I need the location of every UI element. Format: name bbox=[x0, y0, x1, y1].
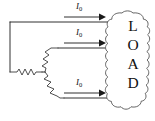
winding-lower-coil-icon bbox=[44, 72, 64, 98]
winding-upper-coil-icon bbox=[42, 48, 58, 72]
load-letter-l: L bbox=[118, 17, 148, 36]
figure-canvas: I0 I0 I0 L O A D bbox=[0, 0, 155, 121]
load-label: L O A D bbox=[118, 17, 148, 93]
current-label-top: I0 bbox=[76, 2, 82, 11]
current-subscript-middle: 0 bbox=[79, 31, 82, 38]
load-letter-o: O bbox=[118, 36, 148, 55]
winding-neutral-coil-icon bbox=[10, 69, 42, 75]
current-subscript-top: 0 bbox=[79, 5, 82, 12]
load-letter-a: A bbox=[118, 55, 148, 74]
current-subscript-bottom: 0 bbox=[79, 81, 82, 88]
current-label-bottom: I0 bbox=[76, 78, 82, 87]
load-letter-d: D bbox=[118, 74, 148, 93]
current-label-middle: I0 bbox=[76, 28, 82, 37]
arrow-middle-head-icon bbox=[99, 40, 106, 47]
arrow-top-head-icon bbox=[99, 14, 106, 21]
